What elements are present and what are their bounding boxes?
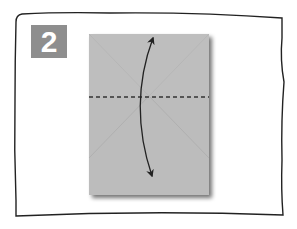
origami-step-diagram: 2	[0, 0, 297, 229]
step-number-badge: 2	[31, 25, 67, 58]
